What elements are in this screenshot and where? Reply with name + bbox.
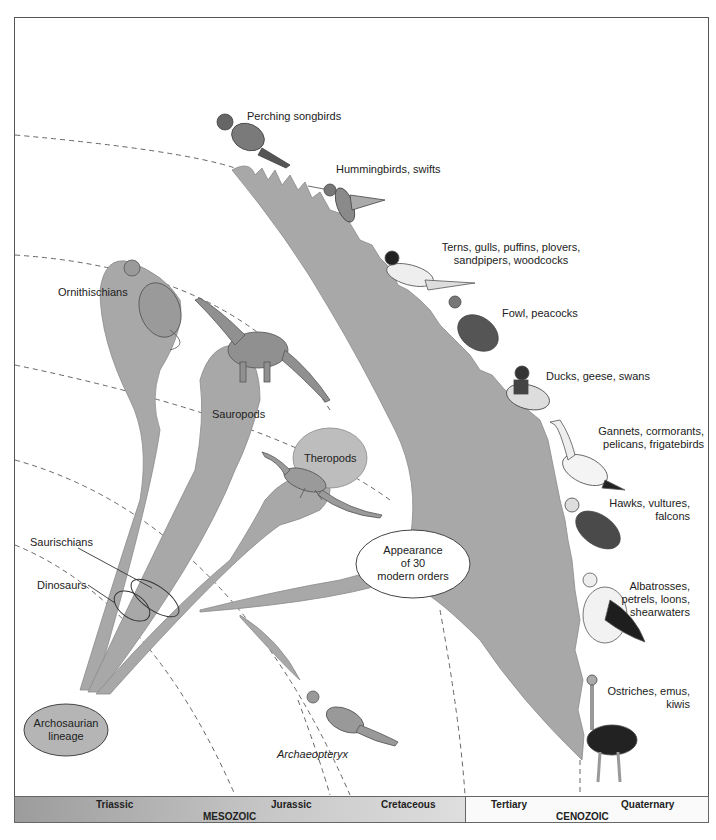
era-name-cenozoic: CENOZOIC	[556, 811, 609, 822]
label-gannets-line1: Gannets, cormorants,	[580, 425, 704, 438]
phylogeny-artwork	[0, 0, 716, 840]
period-triassic: Triassic	[96, 799, 133, 810]
label-perching-songbirds: Perching songbirds	[247, 110, 341, 123]
label-ducks: Ducks, geese, swans	[546, 370, 650, 383]
geologic-timeline: Triassic Jurassic Cretaceous MESOZOIC Te…	[14, 796, 709, 823]
label-albatrosses-line3: shearwaters	[610, 606, 690, 619]
label-root-line2: lineage	[24, 730, 108, 743]
label-ostriches-line2: kiwis	[600, 698, 690, 711]
label-terns-line2: sandpipers, woodcocks	[426, 254, 596, 267]
period-quaternary: Quaternary	[621, 799, 674, 810]
label-modern-orders: Appearance of 30 modern orders	[360, 544, 466, 583]
label-theropods: Theropods	[304, 452, 357, 465]
label-albatrosses-line2: petrels, loons,	[610, 593, 690, 606]
era-mesozoic: Triassic Jurassic Cretaceous MESOZOIC	[14, 796, 465, 823]
label-terns: Terns, gulls, puffins, plovers, sandpipe…	[426, 241, 596, 267]
era-cenozoic: Tertiary Quaternary CENOZOIC	[465, 796, 709, 823]
label-gannets: Gannets, cormorants, pelicans, frigatebi…	[580, 425, 704, 451]
label-fowl: Fowl, peacocks	[502, 307, 578, 320]
label-sauropods: Sauropods	[212, 408, 265, 421]
label-root-line1: Archosaurian	[24, 717, 108, 730]
label-terns-line1: Terns, gulls, puffins, plovers,	[426, 241, 596, 254]
period-cretaceous: Cretaceous	[381, 799, 435, 810]
label-callout-line2: of 30	[360, 557, 466, 570]
label-ostriches-line1: Ostriches, emus,	[600, 685, 690, 698]
label-albatrosses: Albatrosses, petrels, loons, shearwaters	[610, 580, 690, 619]
era-name-mesozoic: MESOZOIC	[203, 811, 256, 822]
label-callout-line1: Appearance	[360, 544, 466, 557]
period-jurassic: Jurassic	[271, 799, 312, 810]
label-gannets-line2: pelicans, frigatebirds	[580, 438, 704, 451]
label-ornithischians: Ornithischians	[58, 286, 128, 299]
archaeopteryx-branch	[240, 615, 300, 680]
label-saurischians: Saurischians	[30, 536, 93, 549]
period-tertiary: Tertiary	[491, 799, 527, 810]
label-hummingbirds: Hummingbirds, swifts	[336, 163, 441, 176]
label-dinosaurs: Dinosaurs	[37, 579, 87, 592]
label-hawks-line1: Hawks, vultures,	[600, 497, 690, 510]
label-callout-line3: modern orders	[360, 570, 466, 583]
label-albatrosses-line1: Albatrosses,	[610, 580, 690, 593]
archaeopteryx-illustration	[307, 691, 398, 746]
sauropod-branch	[88, 345, 260, 692]
label-archosaurian-lineage: Archosaurian lineage	[24, 717, 108, 743]
label-ostriches: Ostriches, emus, kiwis	[600, 685, 690, 711]
label-hawks: Hawks, vultures, falcons	[600, 497, 690, 523]
label-hawks-line2: falcons	[600, 510, 690, 523]
label-archaeopteryx: Archaeopteryx	[277, 748, 348, 761]
